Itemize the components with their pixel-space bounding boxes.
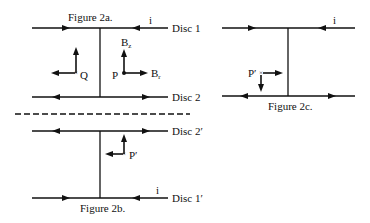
arrow-down-icon	[258, 84, 264, 92]
current-arrow-left-icon	[132, 25, 140, 31]
figure-2c-caption: Figure 2c.	[268, 100, 313, 112]
current-arrow-right-icon	[62, 25, 70, 31]
current-arrow-left-icon	[52, 128, 60, 134]
arrow-up-icon	[121, 49, 127, 57]
current-label: i	[156, 184, 159, 196]
current-arrow-right-icon	[248, 25, 256, 31]
current-label: i	[149, 14, 152, 26]
diagram-canvas: Figure 2a. i Disc 1 Disc 2 × Q P Bz Br	[0, 0, 370, 223]
figure-2a-caption: Figure 2a.	[68, 11, 113, 23]
figure-2b-caption: Figure 2b.	[80, 202, 125, 214]
arrow-left-icon	[105, 151, 113, 157]
current-arrow-right-icon	[328, 93, 336, 99]
current-arrow-right-icon	[142, 94, 150, 100]
bz-label: Bz	[121, 36, 131, 50]
current-arrow-left-icon	[132, 195, 140, 201]
disc-1-label: Disc 1	[172, 22, 200, 34]
figure-2c: i P′ × Figure 2c.	[222, 14, 355, 112]
arrow-right-icon	[140, 70, 148, 76]
point-p-label: P	[112, 69, 118, 81]
arrow-right-icon	[275, 70, 283, 76]
cross-mark-icon: ×	[122, 150, 126, 158]
point-q-label: Q	[80, 69, 88, 81]
current-arrow-right-icon	[142, 128, 150, 134]
figure-2b: Disc 2′ i Disc 1′ × P′ Figure 2b.	[32, 125, 203, 214]
disc-2-label: Disc 2	[172, 91, 200, 103]
point-p-prime-label: P′	[248, 67, 257, 79]
arrow-left-icon	[51, 70, 59, 76]
disc-1-prime-label: Disc 1′	[172, 192, 203, 204]
current-arrow-left-icon	[52, 94, 60, 100]
arrow-up-icon	[73, 47, 79, 55]
current-label: i	[333, 14, 336, 26]
cross-mark-icon: ×	[74, 69, 78, 77]
current-arrow-left-icon	[318, 25, 326, 31]
current-arrow-right-icon	[62, 195, 70, 201]
arrow-up-icon	[121, 134, 127, 142]
current-arrow-left-icon	[240, 93, 248, 99]
point-p-prime-label: P′	[129, 149, 138, 161]
br-label: Br	[151, 67, 161, 81]
figure-2a: Figure 2a. i Disc 1 Disc 2 × Q P Bz Br	[32, 11, 200, 103]
disc-2-prime-label: Disc 2′	[172, 125, 203, 137]
